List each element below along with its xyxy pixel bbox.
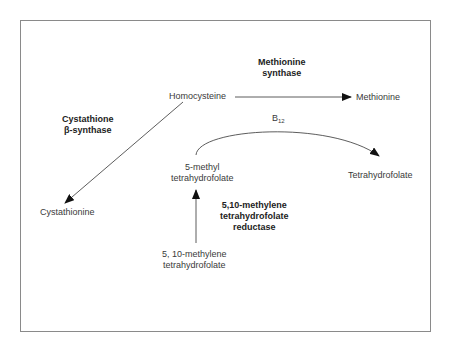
enzyme-line: reductase bbox=[220, 222, 289, 233]
node-5-methyl-thf: 5-methyl tetrahydrofolate bbox=[171, 162, 234, 184]
enzyme-line: Cystathione bbox=[62, 114, 114, 125]
node-tetrahydrofolate: Tetrahydrofolate bbox=[348, 170, 413, 181]
node-homocysteine: Homocysteine bbox=[169, 91, 226, 102]
node-line: 5-methyl bbox=[171, 162, 234, 173]
enzyme-line: β-synthase bbox=[62, 125, 114, 136]
enzyme-cystathionine-synthase: Cystathione β-synthase bbox=[62, 114, 114, 136]
arrow-methylthf-to-thf-arc bbox=[196, 132, 379, 156]
enzyme-line: 5,10-methylene bbox=[220, 200, 289, 211]
enzyme-methionine-synthase: Methionine synthase bbox=[258, 57, 306, 79]
node-line: 5, 10-methylene bbox=[162, 249, 227, 260]
enzyme-line: synthase bbox=[258, 68, 306, 79]
node-methionine: Methionine bbox=[356, 92, 400, 103]
enzyme-line: Methionine bbox=[258, 57, 306, 68]
node-cystathionine: Cystathionine bbox=[40, 207, 95, 218]
enzyme-mthfr: 5,10-methylene tetrahydrofolate reductas… bbox=[220, 200, 289, 233]
node-5-10-methylene-thf: 5, 10-methylene tetrahydrofolate bbox=[162, 249, 227, 271]
node-line: tetrahydrofolate bbox=[162, 260, 227, 271]
node-line: tetrahydrofolate bbox=[171, 173, 234, 184]
enzyme-line: tetrahydrofolate bbox=[220, 211, 289, 222]
cofactor-b12: B12 bbox=[272, 113, 285, 127]
cofactor-subscript: 12 bbox=[278, 118, 285, 124]
